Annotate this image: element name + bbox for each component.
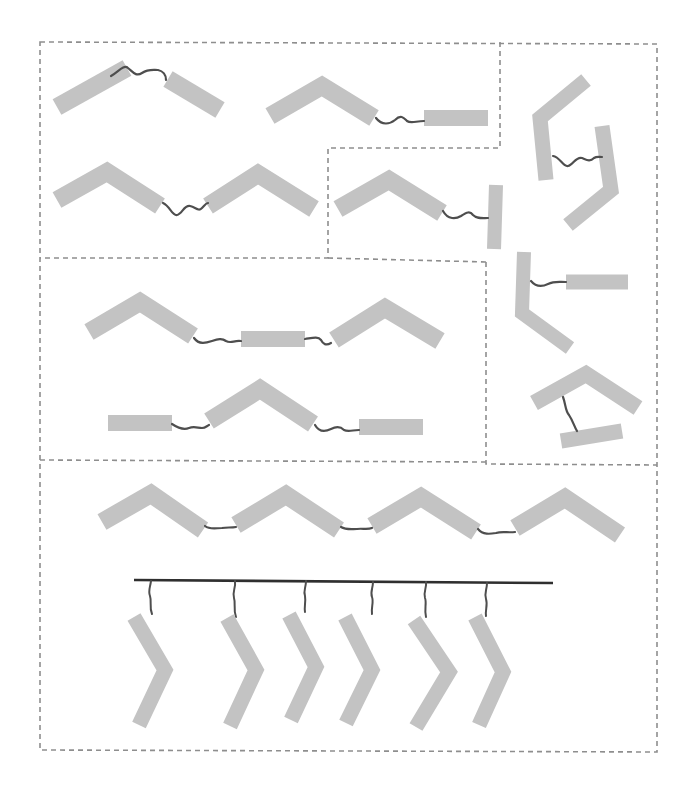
straight-rod [561, 431, 622, 441]
linker [315, 425, 359, 431]
tethered-chevron [345, 582, 373, 723]
tether-linker [149, 581, 152, 614]
linker [553, 156, 602, 166]
linker [194, 338, 241, 343]
assembly-bent-plus-straight [270, 86, 488, 124]
assembly-chain-tetramer [102, 494, 620, 535]
chevron-rod [134, 617, 165, 725]
tether-linker [233, 581, 236, 617]
linker [376, 117, 424, 124]
region-outer-frame [40, 42, 657, 752]
bent-rod [270, 86, 374, 118]
assembly-rod-dimer-inverted-v [57, 67, 220, 110]
bent-rod [236, 495, 339, 530]
tether-linker [304, 581, 306, 612]
linker [563, 397, 577, 431]
bent-rod [534, 374, 638, 408]
bent-rod [209, 389, 313, 424]
straight-rod-vertical [494, 185, 496, 249]
linker [305, 338, 331, 345]
bent-rod [372, 497, 476, 532]
chevron-rod [475, 617, 503, 725]
assembly-trimer-bent-straight-bent [89, 302, 440, 344]
tethered-chevron [414, 582, 449, 727]
region-middle-border [40, 460, 486, 462]
tether-linker [371, 582, 373, 614]
tethered-chevron [134, 581, 165, 725]
linker [443, 211, 488, 218]
linker [205, 526, 236, 529]
region-borders [40, 42, 657, 752]
tethered-chevron [475, 583, 503, 725]
bent-rod [338, 180, 442, 213]
bent-rod [522, 252, 570, 348]
tether-linker [424, 582, 426, 617]
assembly-bent-with-side-rod [522, 252, 628, 348]
bent-rod [208, 174, 314, 209]
assembly-bent-dimer [57, 172, 314, 215]
chevron-rod [227, 618, 256, 726]
assembly-diagram [0, 0, 696, 787]
assembly-trimer-straight-bent-straight [108, 389, 423, 431]
surface-bar [134, 580, 553, 583]
bent-rod [334, 308, 440, 341]
bent-rod [102, 494, 203, 530]
tether-linker [485, 583, 487, 616]
tethered-chevron [227, 581, 256, 726]
linker [341, 527, 372, 529]
rod [168, 79, 220, 110]
linker [478, 529, 515, 534]
tethered-chevron [289, 581, 316, 720]
bent-rod [515, 498, 620, 535]
chevron-rod [289, 615, 316, 720]
chevron-rod [345, 617, 372, 723]
assembly-bent-over-straight [534, 374, 638, 441]
linker [531, 281, 566, 286]
chevron-rod [414, 620, 449, 727]
linker [172, 424, 209, 429]
assembly-surface-tethered-array [134, 580, 553, 727]
linker [163, 203, 208, 215]
bent-rod [57, 172, 160, 206]
bent-rod [568, 126, 611, 225]
bent-rod [89, 302, 193, 336]
assembly-bent-plus-vertical [338, 180, 496, 249]
rod [57, 68, 127, 107]
assembly-facing-bent-dimer [540, 80, 611, 225]
region-top-middle-border [328, 258, 486, 262]
